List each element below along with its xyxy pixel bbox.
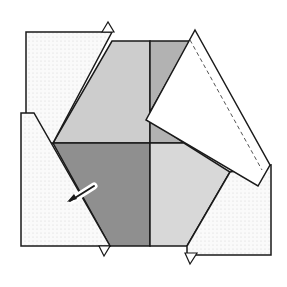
tab-triangle-icon [99,246,110,256]
tab-triangle-icon [102,22,114,32]
origami-diagram [0,0,287,287]
tab-triangle-icon [185,253,197,264]
